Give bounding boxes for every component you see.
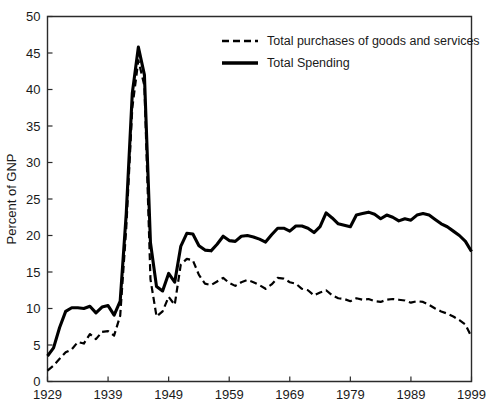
x-tick-label: 1939 xyxy=(94,387,123,402)
y-tick-label: 10 xyxy=(26,301,40,316)
x-tick-label: 1999 xyxy=(457,387,486,402)
chart-container: 05101520253035404550 1929193919491959196… xyxy=(0,0,492,412)
y-tick-label: 50 xyxy=(26,9,40,24)
x-tick-label: 1949 xyxy=(154,387,183,402)
y-tick-label: 45 xyxy=(26,46,40,61)
y-tick-label: 40 xyxy=(26,82,40,97)
gnp-percent-line-chart: 05101520253035404550 1929193919491959196… xyxy=(0,0,492,412)
y-tick-label: 25 xyxy=(26,192,40,207)
legend-label: Total Spending xyxy=(267,56,350,70)
x-tick-label: 1969 xyxy=(275,387,304,402)
y-tick-label: 5 xyxy=(33,338,40,353)
x-tick-label: 1979 xyxy=(336,387,365,402)
x-tick-label: 1959 xyxy=(215,387,244,402)
y-tick-label: 30 xyxy=(26,155,40,170)
x-tick-label: 1929 xyxy=(33,387,62,402)
y-tick-label: 20 xyxy=(26,228,40,243)
x-tick-label: 1989 xyxy=(396,387,425,402)
y-tick-label: 15 xyxy=(26,265,40,280)
legend-label: Total purchases of goods and services xyxy=(267,34,480,48)
y-tick-label: 35 xyxy=(26,119,40,134)
y-axis-title: Percent of GNP xyxy=(4,153,19,244)
